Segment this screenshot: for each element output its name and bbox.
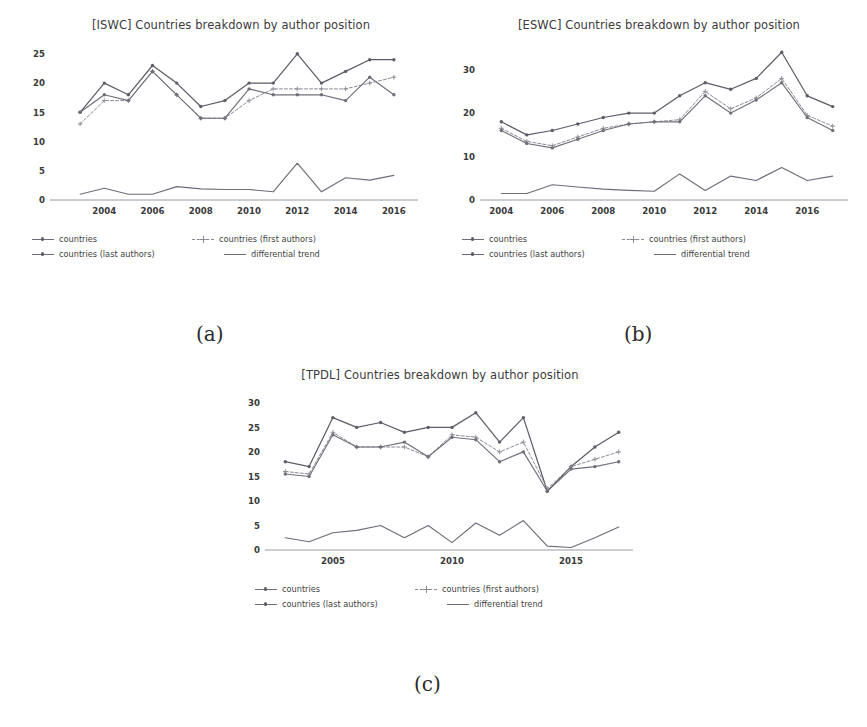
y-tick-label: 5 <box>254 521 260 531</box>
figure-page: [ISWC] Countries breakdown by author pos… <box>0 0 867 727</box>
legend-label-countries: countries <box>489 235 527 243</box>
y-tick-label: 20 <box>463 108 475 118</box>
y-tick-label: 0 <box>469 195 475 205</box>
legend-label-differential: differential trend <box>251 250 320 258</box>
y-tick-label: 0 <box>39 195 45 205</box>
x-tick-label: 2004 <box>489 206 513 216</box>
x-tick-label: 2015 <box>559 556 583 566</box>
y-tick-label: 30 <box>463 65 475 75</box>
subfigure-caption-c: (c) <box>414 672 441 696</box>
line-chart-iswc: 05101520252004200620082010201220142016 <box>10 40 430 230</box>
y-tick-label: 30 <box>248 398 260 408</box>
series-countries <box>284 411 621 493</box>
legend-marker-countries-last-icon <box>462 250 484 259</box>
x-tick-label: 2016 <box>795 206 819 216</box>
legend-eswc: countries countries (first authors) coun… <box>440 232 860 262</box>
legend-tpdl: countries countries (first authors) coun… <box>225 582 645 612</box>
legend-marker-countries-icon <box>255 585 277 594</box>
legend-iswc: countries countries (first authors) coun… <box>10 232 430 262</box>
legend-marker-countries-icon <box>32 235 54 244</box>
x-tick-label: 2010 <box>642 206 666 216</box>
legend-item-differential: differential trend <box>224 250 320 259</box>
x-tick-label: 2014 <box>334 206 358 216</box>
series-countries <box>500 51 835 137</box>
chart-title-iswc: [ISWC] Countries breakdown by author pos… <box>10 18 430 32</box>
x-tick-label: 2010 <box>237 206 261 216</box>
legend-item-countries: countries <box>225 585 415 594</box>
subfigure-caption-a: (a) <box>196 322 224 346</box>
y-tick-label: 10 <box>33 137 45 147</box>
line-chart-tpdl: 051015202530200520102015 <box>225 390 645 580</box>
series-differential-trend <box>285 521 618 548</box>
y-tick-label: 15 <box>33 108 45 118</box>
series-countries-first-authors- <box>283 430 621 491</box>
x-tick-label: 2004 <box>92 206 116 216</box>
series-countries-last-authors- <box>500 81 835 150</box>
y-tick-label: 20 <box>248 447 260 457</box>
legend-label-countries-first: countries (first authors) <box>219 235 316 243</box>
chart-panel-eswc: [ESWC] Countries breakdown by author pos… <box>440 18 860 318</box>
legend-item-countries-last: countries (last authors) <box>440 250 654 259</box>
legend-label-countries: countries <box>59 235 97 243</box>
plot-area-iswc: 05101520252004200620082010201220142016 <box>10 40 430 230</box>
x-tick-label: 2012 <box>693 206 717 216</box>
legend-marker-differential-icon <box>447 600 469 609</box>
y-tick-label: 20 <box>33 78 45 88</box>
legend-item-countries-first: countries (first authors) <box>192 235 316 244</box>
legend-marker-countries-first-icon <box>622 235 644 244</box>
legend-marker-differential-icon <box>654 250 676 259</box>
chart-panel-iswc: [ISWC] Countries breakdown by author pos… <box>10 18 430 318</box>
chart-title-tpdl: [TPDL] Countries breakdown by author pos… <box>225 368 645 382</box>
legend-marker-countries-first-icon <box>415 585 437 594</box>
legend-marker-countries-icon <box>462 235 484 244</box>
plot-area-eswc: 01020302004200620082010201220142016 <box>440 40 860 230</box>
legend-label-countries-first: countries (first authors) <box>442 585 539 593</box>
y-tick-label: 0 <box>254 545 260 555</box>
legend-label-differential: differential trend <box>681 250 750 258</box>
legend-label-differential: differential trend <box>474 600 543 608</box>
y-tick-label: 5 <box>39 166 45 176</box>
legend-item-countries-first: countries (first authors) <box>415 585 539 594</box>
x-tick-label: 2008 <box>591 206 615 216</box>
y-tick-label: 10 <box>463 152 475 162</box>
legend-label-countries: countries <box>282 585 320 593</box>
subfigure-caption-b: (b) <box>624 322 652 346</box>
legend-label-countries-last: countries (last authors) <box>489 250 585 258</box>
legend-item-countries-first: countries (first authors) <box>622 235 746 244</box>
legend-marker-differential-icon <box>224 250 246 259</box>
plot-area-tpdl: 051015202530200520102015 <box>225 390 645 580</box>
legend-marker-countries-last-icon <box>255 600 277 609</box>
x-tick-label: 2008 <box>189 206 213 216</box>
x-tick-label: 2006 <box>540 206 564 216</box>
legend-label-countries-last: countries (last authors) <box>59 250 155 258</box>
series-countries <box>78 52 395 114</box>
legend-label-countries-last: countries (last authors) <box>282 600 378 608</box>
series-differential-trend <box>80 163 394 194</box>
y-tick-label: 10 <box>248 496 260 506</box>
x-tick-label: 2014 <box>744 206 768 216</box>
y-tick-label: 25 <box>248 423 260 433</box>
x-tick-label: 2016 <box>382 206 406 216</box>
chart-panel-tpdl: [TPDL] Countries breakdown by author pos… <box>225 368 645 668</box>
legend-item-countries: countries <box>10 235 192 244</box>
legend-item-differential: differential trend <box>447 600 543 609</box>
series-differential-trend <box>501 167 832 193</box>
legend-label-countries-first: countries (first authors) <box>649 235 746 243</box>
x-tick-label: 2006 <box>141 206 165 216</box>
x-tick-label: 2012 <box>285 206 309 216</box>
x-tick-label: 2010 <box>440 556 464 566</box>
series-countries-last-authors- <box>78 70 395 120</box>
legend-marker-countries-last-icon <box>32 250 54 259</box>
legend-marker-countries-first-icon <box>192 235 214 244</box>
legend-item-differential: differential trend <box>654 250 750 259</box>
legend-item-countries: countries <box>440 235 622 244</box>
y-tick-label: 25 <box>33 49 45 59</box>
series-countries-last-authors- <box>284 433 621 493</box>
line-chart-eswc: 01020302004200620082010201220142016 <box>440 40 860 230</box>
legend-item-countries-last: countries (last authors) <box>225 600 447 609</box>
y-tick-label: 15 <box>248 472 260 482</box>
chart-title-eswc: [ESWC] Countries breakdown by author pos… <box>440 18 860 32</box>
legend-item-countries-last: countries (last authors) <box>10 250 224 259</box>
x-tick-label: 2005 <box>321 556 345 566</box>
